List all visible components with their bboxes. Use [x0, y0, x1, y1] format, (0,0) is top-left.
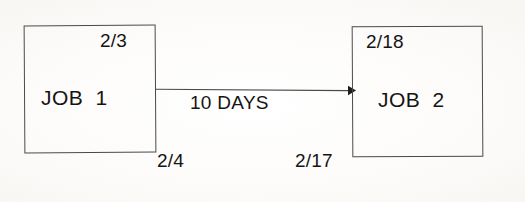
job-1-late-date: 2/4 — [157, 151, 184, 170]
job-2-label: JOB 2 — [378, 89, 445, 110]
arrow-line — [156, 89, 348, 90]
job-2-late-date: 2/17 — [295, 151, 333, 170]
arrow-duration-label: 10 DAYS — [190, 93, 269, 112]
job-1-early-date: 2/3 — [100, 31, 127, 50]
job-1-label: JOB 1 — [41, 87, 108, 108]
precedence-diagram: 2/3 JOB 1 2/4 10 DAYS 2/18 JOB 2 2/17 — [0, 0, 525, 202]
job-2-early-date: 2/18 — [366, 32, 404, 51]
